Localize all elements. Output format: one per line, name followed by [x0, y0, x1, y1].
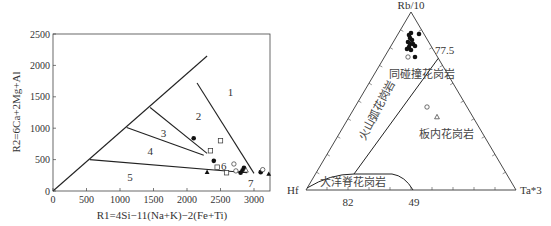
open-square-marker — [215, 165, 219, 169]
open-circle-marker — [234, 169, 238, 173]
region-label-7: 7 — [248, 177, 254, 189]
edge-label-77-5: 77.5 — [435, 44, 455, 56]
y-tick-label: 2500 — [30, 29, 50, 40]
region-label-3: 3 — [161, 127, 167, 139]
right-edge-tick — [482, 137, 485, 139]
y-tick-label: 1500 — [30, 91, 50, 102]
region-label-5: 5 — [127, 171, 133, 183]
filled-triangle-marker — [266, 171, 271, 175]
left-edge-tick — [390, 48, 393, 50]
filled-circle-marker — [408, 42, 413, 47]
apex-label-top: Rb/10 — [398, 0, 425, 11]
x-tick-label: 1000 — [110, 194, 130, 205]
region-label-6: 6 — [221, 160, 227, 172]
right-edge-tick — [440, 65, 443, 67]
right-edge-tick — [461, 101, 464, 103]
x-tick-label: 3000 — [244, 194, 264, 205]
plot-frame — [53, 34, 270, 191]
x-axis-label: R1=4Si−11(Na+K)−2(Fe+Ti) — [97, 209, 228, 222]
right-edge-tick — [492, 154, 495, 156]
base-tick-label-49: 49 — [409, 196, 421, 208]
right-edge-tick — [419, 30, 422, 32]
y-tick-label: 2000 — [30, 60, 50, 71]
apex-label-left: Hf — [287, 184, 299, 196]
region-label-4: 4 — [147, 145, 153, 157]
open-triangle-marker — [435, 114, 440, 118]
figure: 0500100015002000250030000500100015002000… — [0, 0, 551, 226]
open-circle-marker — [406, 55, 410, 59]
field-label-within-plate-granite: 板内花岗岩 — [419, 127, 474, 141]
right-edge-tick — [503, 172, 506, 174]
filled-circle-marker — [413, 55, 418, 60]
y-tick-label: 500 — [35, 154, 50, 165]
filled-circle-marker — [405, 47, 410, 52]
field-label-volcanic-arc-granite: 火山弧花岗岩 — [355, 78, 398, 143]
rb-hf-ta-ternary-chart: Rb/10 Hf Ta*3 82 49 77.5 同碰撞花岗岩 火山弧花岗岩 板… — [287, 0, 542, 208]
r1-r2-discrimination-chart: 0500100015002000250030000500100015002000… — [0, 0, 551, 226]
left-edge-tick — [317, 172, 320, 174]
axis-ticks: 0500100015002000250030000500100015002000… — [30, 29, 264, 206]
apex-label-right: Ta*3 — [520, 184, 542, 196]
open-square-marker — [208, 149, 212, 153]
left-edge-tick — [401, 30, 404, 32]
x-tick-label: 1500 — [144, 194, 164, 205]
left-edge-tick — [380, 65, 383, 67]
base-tick-label-82: 82 — [343, 196, 354, 208]
region-label-1: 1 — [228, 86, 234, 98]
filled-circle-marker — [191, 136, 196, 141]
left-edge-tick — [359, 101, 362, 103]
plot-border — [53, 34, 270, 191]
left-edge-tick — [369, 83, 372, 85]
field-label-syn-collision-granite: 同碰撞花岗岩 — [389, 67, 455, 81]
region-label-2: 2 — [196, 110, 202, 122]
y-tick-label: 0 — [45, 186, 50, 197]
x-tick-label: 2000 — [177, 194, 197, 205]
right-edge-tick — [471, 119, 474, 121]
x-tick-label: 500 — [79, 194, 94, 205]
left-edge-tick — [338, 137, 341, 139]
open-circle-marker — [232, 162, 236, 166]
y-tick-label: 1000 — [30, 123, 50, 134]
filled-circle-marker — [410, 38, 415, 43]
data-points — [191, 136, 271, 176]
right-edge-tick — [429, 48, 432, 50]
open-circle-marker — [425, 105, 429, 109]
left-edge-tick — [327, 154, 330, 156]
y-axis-label: R2=6Ca+2Mg+Al — [10, 72, 22, 153]
open-square-marker — [218, 139, 222, 143]
x-tick-label: 0 — [51, 194, 56, 205]
x-tick-label: 2500 — [211, 194, 231, 205]
open-circle-marker — [261, 167, 265, 171]
right-edge-tick — [450, 83, 453, 85]
left-edge-tick — [348, 119, 351, 121]
filled-circle-marker — [212, 159, 217, 164]
region-labels: 1234567 — [127, 86, 254, 188]
filled-triangle-marker — [205, 170, 210, 174]
filled-circle-marker — [417, 32, 422, 37]
filled-circle-marker — [413, 44, 418, 49]
field-label-ocean-ridge-granite: 大洋脊花岗岩 — [320, 175, 386, 189]
filled-circle-marker — [409, 48, 414, 53]
filled-circle-marker — [409, 31, 414, 36]
